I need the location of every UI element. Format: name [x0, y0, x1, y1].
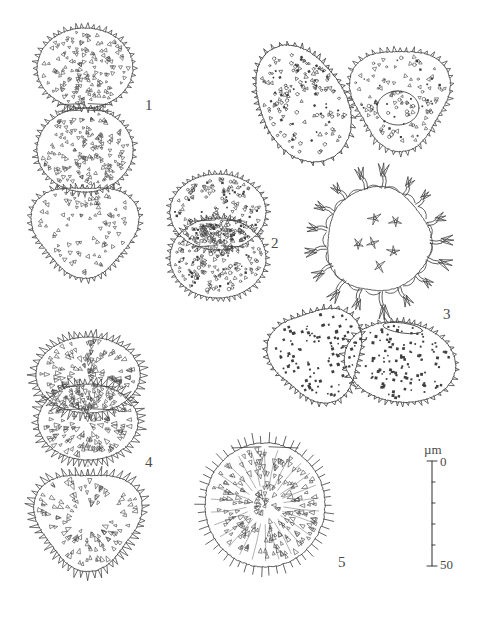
specimen-specimen-1-polar-upper — [32, 23, 137, 113]
scale-bar-unit-label: µm — [424, 443, 442, 456]
specimen-specimen-3-equatorial-left — [253, 293, 384, 422]
scale-bar-bottom-label: 50 — [440, 558, 453, 571]
specimen-specimen-3-polar — [304, 163, 453, 320]
figure-label-2: 2 — [271, 236, 279, 251]
specimen-specimen-4-lower — [32, 377, 147, 466]
specimen-specimen-upper-right-b — [346, 46, 454, 157]
scale-bar — [427, 461, 437, 566]
specimen-specimen-4-equatorial — [25, 466, 150, 580]
figure-label-3: 3 — [443, 307, 451, 322]
specimen-specimen-2-lower — [166, 213, 271, 302]
specimen-specimen-3-equatorial-right — [333, 309, 466, 415]
scale-bar-top-label: 0 — [440, 455, 447, 468]
figure-label-5: 5 — [338, 555, 346, 570]
figure-label-1: 1 — [145, 98, 153, 113]
specimen-specimen-2-upper — [166, 169, 271, 254]
figure-label-4: 4 — [145, 455, 153, 470]
specimen-specimen-1-polar-lower — [32, 104, 137, 197]
illustration-plate: 1 2 3 4 5 µm 0 50 — [0, 0, 481, 623]
specimen-specimen-upper-right-a — [230, 23, 374, 183]
pollen-plate-drawing — [0, 0, 481, 623]
specimen-specimen-4-upper — [27, 329, 148, 421]
specimen-specimen-5 — [195, 433, 334, 577]
